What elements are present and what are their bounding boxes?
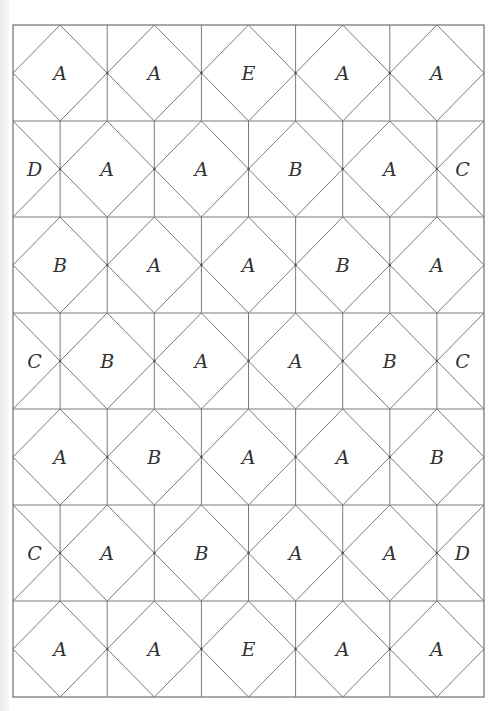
vertex-dot xyxy=(294,456,297,459)
edge-triangle-label-right: C xyxy=(455,350,470,372)
grid-line xyxy=(60,217,107,265)
grid-line xyxy=(107,121,154,169)
grid-line xyxy=(201,121,248,169)
diamond-label: A xyxy=(145,638,161,660)
grid-line xyxy=(154,25,201,73)
vertex-dot xyxy=(247,552,250,555)
diamond-label: A xyxy=(98,158,114,180)
grid-line xyxy=(296,553,343,601)
grid-line xyxy=(60,457,107,505)
diamond-label: A xyxy=(145,62,161,84)
edge-triangle-label-right: C xyxy=(455,158,470,180)
grid-line xyxy=(154,409,201,457)
diamond-label: A xyxy=(381,542,397,564)
grid-line xyxy=(107,313,154,361)
diamond-label: A xyxy=(98,542,114,564)
diamond-label: B xyxy=(193,542,208,564)
diamond-label: A xyxy=(287,350,303,372)
vertex-dot xyxy=(59,360,62,363)
vertex-dot xyxy=(294,72,297,75)
grid-line xyxy=(249,409,296,457)
diamond-label: E xyxy=(241,638,256,660)
grid-line xyxy=(437,265,484,313)
grid-line xyxy=(107,505,154,553)
vertex-dot xyxy=(341,360,344,363)
grid-line xyxy=(60,601,107,649)
grid-line xyxy=(437,217,484,265)
vertex-dot xyxy=(200,648,203,651)
vertex-dot xyxy=(200,72,203,75)
vertex-dot xyxy=(436,360,439,363)
diamond-label: B xyxy=(99,350,114,372)
edge-triangle-label-right: D xyxy=(454,542,470,564)
diamond-label: A xyxy=(51,638,67,660)
grid-line xyxy=(296,361,343,409)
vertex-dot xyxy=(59,168,62,171)
vertex-dot xyxy=(389,264,392,267)
diamond-label: B xyxy=(335,254,350,276)
grid-line xyxy=(343,649,390,697)
grid-line xyxy=(154,457,201,505)
edge-triangle-label-left: C xyxy=(27,542,42,564)
grid-line xyxy=(60,73,107,121)
grid-line xyxy=(201,553,248,601)
grid-line xyxy=(201,505,248,553)
grid-line xyxy=(60,649,107,697)
diamond-label: A xyxy=(51,446,67,468)
grid-line xyxy=(343,217,390,265)
diamond-label: A xyxy=(428,638,444,660)
grid-line xyxy=(154,649,201,697)
edge-triangle-label-left: C xyxy=(27,350,42,372)
grid-line xyxy=(343,601,390,649)
diamond-label: A xyxy=(145,254,161,276)
grid-line xyxy=(249,601,296,649)
diamond-label: A xyxy=(334,638,350,660)
vertex-dot xyxy=(59,552,62,555)
diamond-label: B xyxy=(288,158,303,180)
diamond-label: E xyxy=(241,62,256,84)
grid-line xyxy=(296,505,343,553)
grid-line xyxy=(390,121,437,169)
grid-line xyxy=(437,457,484,505)
vertex-dot xyxy=(436,552,439,555)
vertex-dot xyxy=(153,168,156,171)
grid-line xyxy=(343,25,390,73)
vertex-dot xyxy=(153,360,156,363)
grid-line xyxy=(390,361,437,409)
grid-line xyxy=(390,553,437,601)
grid-line xyxy=(154,217,201,265)
vertex-dot xyxy=(389,72,392,75)
grid-line xyxy=(107,169,154,217)
grid-line xyxy=(343,265,390,313)
diamond-label: A xyxy=(428,62,444,84)
grid-line xyxy=(390,505,437,553)
grid-line xyxy=(249,25,296,73)
grid-line xyxy=(343,73,390,121)
vertex-dot xyxy=(153,552,156,555)
diamond-tiling-diagram: AAEAAAABADCBAABABAABCCABAABABAACDAAEAA xyxy=(0,0,499,711)
grid-line xyxy=(437,25,484,73)
vertex-dot xyxy=(106,264,109,267)
grid-line xyxy=(201,313,248,361)
grid-line xyxy=(390,313,437,361)
grid-line xyxy=(343,457,390,505)
diamond-label: A xyxy=(287,542,303,564)
grid-line xyxy=(249,217,296,265)
grid-line xyxy=(60,409,107,457)
vertex-dot xyxy=(341,168,344,171)
grid-line xyxy=(107,553,154,601)
diamond-label: B xyxy=(429,446,444,468)
grid-line xyxy=(296,169,343,217)
vertex-dot xyxy=(200,456,203,459)
diamond-label: A xyxy=(334,446,350,468)
edge-triangle-label-left: D xyxy=(26,158,42,180)
grid-line xyxy=(249,649,296,697)
diamond-label: A xyxy=(381,158,397,180)
diamond-label: A xyxy=(240,254,256,276)
vertex-dot xyxy=(294,648,297,651)
grid-line xyxy=(107,361,154,409)
grid-line xyxy=(201,169,248,217)
grid-line xyxy=(296,121,343,169)
vertex-dot xyxy=(389,648,392,651)
grid-line xyxy=(249,73,296,121)
